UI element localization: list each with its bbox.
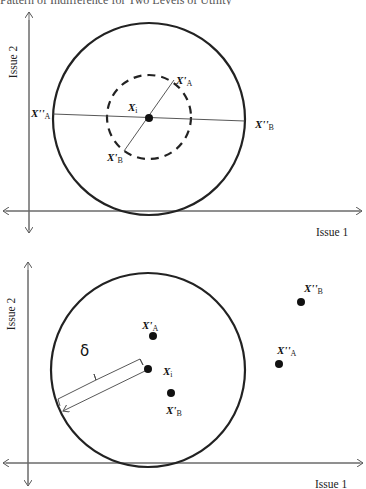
- top-label-x-prime-a: X'A: [175, 74, 192, 88]
- top-diagram: Xi X'A X'B X''A X''B Issue 1 Issue 2: [3, 12, 362, 238]
- top-label-x-dprime-b: X''B: [254, 118, 274, 132]
- radius-bracket: [58, 359, 143, 406]
- delta-label: δ: [80, 342, 89, 360]
- bottom-point-x-dprime-b: [297, 298, 305, 306]
- bottom-x-axis-label: Issue 1: [315, 478, 348, 489]
- top-label-x-dprime-a: X''A: [30, 107, 50, 121]
- top-label-x-prime-b: X'B: [106, 151, 123, 165]
- bottom-point-x-prime-b: [167, 389, 175, 397]
- bottom-point-x-dprime-a: [275, 360, 283, 368]
- bottom-label-x-dprime-a: X''A: [276, 344, 296, 358]
- bottom-label-x-dprime-b: X''B: [303, 282, 323, 296]
- bottom-diagram: δ Xi X'A X'B X''A X''B Issue 1 Issue 2: [3, 262, 363, 489]
- top-label-xi: Xi: [127, 101, 138, 115]
- spatial-utility-figure: Xi X'A X'B X''A X''B Issue 1 Issue 2 δ X…: [0, 0, 366, 489]
- bottom-y-axis-label: Issue 2: [5, 298, 17, 331]
- bottom-label-xi: Xi: [162, 365, 173, 379]
- top-x-axis-label: Issue 1: [316, 226, 349, 238]
- top-y-axis-label: Issue 2: [7, 46, 19, 79]
- bottom-ideal-point: [144, 365, 152, 373]
- bottom-point-x-prime-a: [149, 332, 157, 340]
- bottom-label-x-prime-b: X'B: [165, 404, 182, 418]
- top-ideal-point: [145, 114, 153, 122]
- bottom-label-x-prime-a: X'A: [141, 319, 158, 333]
